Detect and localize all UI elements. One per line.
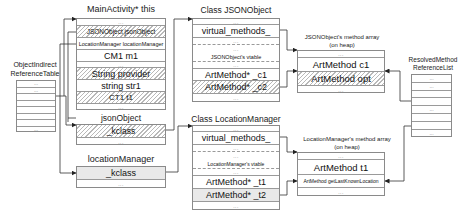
vtable-label: JSONObject's vtable bbox=[193, 52, 279, 62]
object-indirect-reference-table: ... ... ... bbox=[16, 80, 56, 132]
arrow-c2-to-opt bbox=[280, 71, 297, 87]
field-row: ... bbox=[77, 104, 165, 110]
field-cm1-m1: CM1 m1 bbox=[77, 50, 165, 62]
field-row: ... bbox=[77, 180, 165, 188]
field-json-object: JSONObject jsonObject bbox=[77, 26, 165, 38]
location-method-array-title: LocationManager's method array (on heap) bbox=[292, 135, 402, 151]
resolved-method-reference-list-title: ResolvedMethod ReferenceList bbox=[402, 56, 464, 72]
title-line-2: (on heap) bbox=[292, 143, 402, 151]
main-activity-object: ... JSONObject jsonObject LocationManage… bbox=[76, 18, 166, 110]
arrow-t2-to-getlastknown bbox=[280, 181, 297, 195]
field-row: ... bbox=[298, 153, 384, 160]
field-row: ... bbox=[193, 169, 279, 176]
object-indirect-reference-table-title: ObjectIndirect ReferenceTable bbox=[2, 60, 68, 78]
location-method-array: ... ArtMethod t1 ArtMethod getLastKnownL… bbox=[297, 152, 385, 196]
field-row: ... bbox=[193, 145, 279, 152]
title-line-1: JSONObject's method array bbox=[292, 33, 392, 41]
table-row bbox=[412, 114, 451, 122]
location-manager-instance: _kclass ... bbox=[76, 166, 166, 188]
field-row: ... bbox=[77, 19, 165, 26]
field-string-str1: string str1 bbox=[77, 80, 165, 92]
title-line-1: ResolvedMethod bbox=[402, 56, 464, 64]
arrow-kclass-to-class-location bbox=[166, 126, 192, 172]
field-row: ... bbox=[193, 202, 279, 210]
vtable-label: LocationManager's vtable bbox=[193, 159, 279, 169]
location-manager-instance-title: locationManager bbox=[76, 154, 166, 164]
resolved-method-reference-list: ... ... ... ... bbox=[411, 74, 452, 137]
field-row: ... bbox=[193, 62, 279, 69]
title-line-2: ReferenceList bbox=[402, 64, 464, 72]
json-method-array: ... ArtMethod c1 ArtMethod opt ... bbox=[297, 50, 385, 93]
table-row: ... bbox=[412, 106, 451, 114]
title-line-2: ReferenceTable bbox=[2, 69, 68, 78]
json-object-instance-title: jsonObject bbox=[76, 113, 166, 123]
method-c1: ArtMethod c1 bbox=[298, 58, 384, 72]
field-artmethod-c1: ArtMethod* _c1 bbox=[193, 69, 279, 81]
field-artmethod-c2: ArtMethod* _c2 bbox=[193, 81, 279, 94]
json-method-array-title: JSONObject's method array (on heap) bbox=[292, 33, 392, 49]
field-kclass: _kclass bbox=[77, 167, 165, 180]
field-row: ... bbox=[193, 38, 279, 45]
title-line-1: ObjectIndirect bbox=[2, 60, 68, 69]
arrow-field-to-jsonobject bbox=[68, 32, 76, 118]
arrow-resolved-to-opt bbox=[385, 71, 411, 101]
field-row: ... bbox=[193, 94, 279, 102]
field-location-manager: LocationManager locationManager bbox=[77, 38, 165, 50]
table-row: ... bbox=[412, 83, 451, 91]
field-row: ... bbox=[298, 188, 384, 196]
class-location-manager: ... virtual_methods_ ... ... LocationMan… bbox=[192, 125, 280, 210]
table-row: ... bbox=[412, 75, 451, 83]
title-line-1: LocationManager's method array bbox=[292, 135, 402, 143]
title-line-2: (on heap) bbox=[292, 41, 392, 49]
field-artmethod-t1: ArtMethod* _t1 bbox=[193, 176, 279, 189]
json-object-instance: _kclass ... bbox=[76, 124, 166, 145]
table-row bbox=[412, 122, 451, 130]
vtable-dots: ... bbox=[193, 152, 279, 159]
field-artmethod-t2: ArtMethod* _t2 bbox=[193, 189, 279, 202]
main-activity-title: MainActivity* this bbox=[76, 4, 166, 14]
method-get-last-known-location: ArtMethod getLastKnownLocation bbox=[298, 175, 384, 188]
field-virtual-methods: virtual_methods_ bbox=[193, 25, 279, 38]
field-string-provider: String provider bbox=[77, 68, 165, 80]
method-t1: ArtMethod t1 bbox=[298, 160, 384, 175]
arrow-ref-to-this bbox=[56, 19, 76, 96]
field-kclass: _kclass bbox=[77, 125, 165, 138]
field-row: ... bbox=[298, 86, 384, 93]
field-row: ... bbox=[298, 51, 384, 58]
table-row bbox=[412, 91, 451, 99]
table-row: ... bbox=[412, 130, 451, 137]
class-json-object-title: Class JSONObject bbox=[192, 5, 280, 15]
field-ct1-t1: CT1 t1 bbox=[77, 92, 165, 104]
table-row bbox=[412, 98, 451, 106]
vtable-dots: ... bbox=[193, 45, 279, 52]
class-json-object: ... virtual_methods_ ... ... JSONObject'… bbox=[192, 18, 280, 102]
field-virtual-methods: virtual_methods_ bbox=[193, 132, 279, 145]
method-opt: ArtMethod opt bbox=[298, 72, 384, 86]
class-location-manager-title: Class LocationManager bbox=[185, 114, 287, 124]
field-row: ... bbox=[77, 138, 165, 145]
table-row: ... bbox=[17, 127, 55, 133]
